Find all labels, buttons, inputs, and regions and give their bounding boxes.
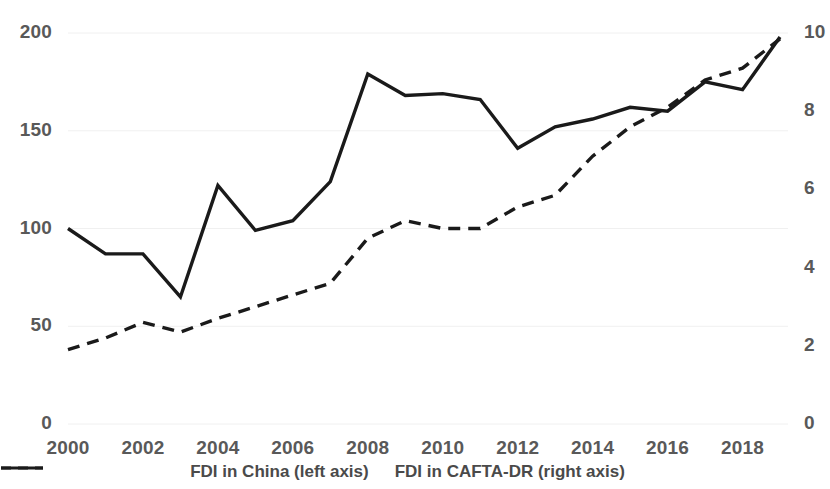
y-axis-right-tick-label: 2	[804, 334, 830, 356]
legend-item-cafta-dr[interactable]: FDI in CAFTA-DR (right axis)	[395, 462, 625, 482]
y-axis-left-tick-label: 100	[0, 217, 52, 239]
x-axis-tick-label: 2000	[28, 437, 108, 459]
x-axis-tick-label: 2016	[628, 437, 708, 459]
series-group	[68, 37, 780, 350]
legend-label-china: FDI in China (left axis)	[190, 462, 369, 482]
x-axis-tick-label: 2004	[178, 437, 258, 459]
x-axis-tick-label: 2010	[403, 437, 483, 459]
series-line-china	[68, 39, 780, 350]
y-axis-left-tick-label: 0	[0, 412, 52, 434]
y-axis-right-tick-label: 8	[804, 99, 830, 121]
legend-item-china[interactable]: FDI in China (left axis)	[190, 462, 369, 482]
y-axis-right-tick-label: 6	[804, 177, 830, 199]
chart-legend: FDI in China (left axis) FDI in CAFTA-DR…	[0, 462, 815, 482]
x-axis-tick-label: 2008	[328, 437, 408, 459]
y-axis-left-tick-label: 150	[0, 119, 52, 141]
x-axis-tick-label: 2006	[253, 437, 333, 459]
gridlines-group	[68, 33, 788, 424]
x-axis-tick-label: 2002	[103, 437, 183, 459]
legend-label-cafta-dr: FDI in CAFTA-DR (right axis)	[395, 462, 625, 482]
y-axis-right-tick-label: 4	[804, 256, 830, 278]
y-axis-left-tick-label: 200	[0, 21, 52, 43]
x-axis-tick-label: 2012	[478, 437, 558, 459]
y-axis-left-tick-label: 50	[0, 314, 52, 336]
y-axis-right-tick-label: 0	[804, 412, 830, 434]
x-axis-tick-label: 2018	[703, 437, 783, 459]
y-axis-right-tick-label: 10	[804, 21, 830, 43]
x-axis-tick-label: 2014	[553, 437, 633, 459]
series-line-cafta-dr	[68, 37, 780, 297]
legend-swatch-solid-icon	[0, 462, 44, 474]
